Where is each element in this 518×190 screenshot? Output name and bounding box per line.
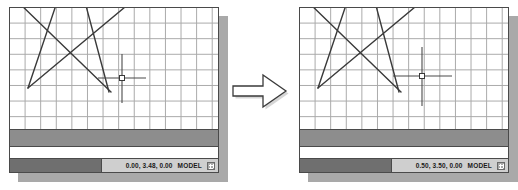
status-bar-left-region-after bbox=[300, 159, 392, 172]
command-input-band-before[interactable] bbox=[10, 147, 218, 159]
grid-icon[interactable] bbox=[207, 162, 215, 170]
command-band-before bbox=[10, 130, 218, 147]
status-bar-right-region-after: 0.50, 3.50, 0.00 MODEL bbox=[392, 159, 508, 172]
model-space-toggle[interactable]: MODEL bbox=[178, 162, 202, 169]
cad-window-after: 0.50, 3.50, 0.00 MODEL bbox=[299, 7, 509, 173]
status-bar-right-region-before: 0.00, 3.48, 0.00 MODEL bbox=[102, 159, 218, 172]
coordinate-readout[interactable]: 0.50, 3.50, 0.00 bbox=[416, 162, 463, 169]
grid-icon[interactable] bbox=[497, 162, 505, 170]
drawing-area-before[interactable] bbox=[10, 8, 218, 130]
command-band-after bbox=[300, 130, 508, 147]
model-space-toggle[interactable]: MODEL bbox=[468, 162, 492, 169]
status-bar-after: 0.50, 3.50, 0.00 MODEL bbox=[300, 159, 508, 172]
status-bar-left-region-before bbox=[10, 159, 102, 172]
figure-stage: 0.00, 3.48, 0.00 MODEL 0.50, bbox=[0, 0, 518, 190]
status-bar-before: 0.00, 3.48, 0.00 MODEL bbox=[10, 159, 218, 172]
right-block-arrow-icon bbox=[228, 66, 290, 116]
coordinate-readout[interactable]: 0.00, 3.48, 0.00 bbox=[126, 162, 173, 169]
crosshair-cursor-after bbox=[300, 8, 508, 129]
command-input-band-after[interactable] bbox=[300, 147, 508, 159]
cad-window-before: 0.00, 3.48, 0.00 MODEL bbox=[9, 7, 219, 173]
drawing-area-after[interactable] bbox=[300, 8, 508, 130]
crosshair-cursor-before bbox=[10, 8, 218, 129]
